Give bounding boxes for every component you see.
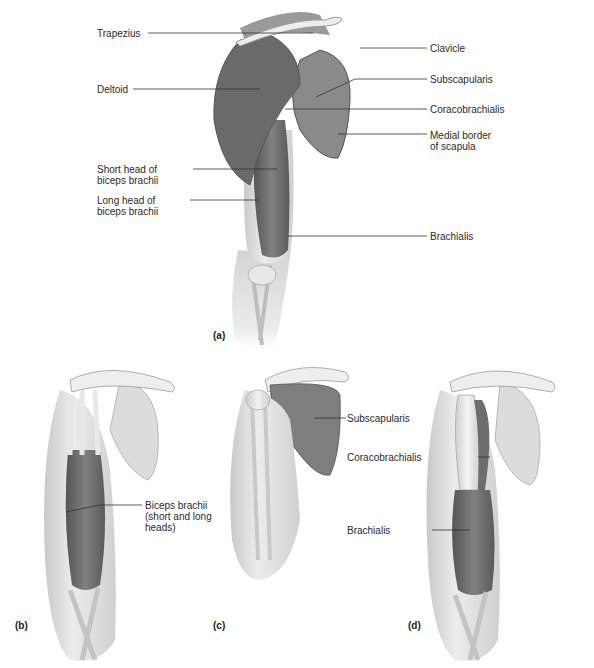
label-coracobrachialis-d: Coracobrachialis bbox=[347, 452, 421, 463]
panel-d-illustration bbox=[427, 371, 556, 661]
label-short-head-biceps: Short head of biceps brachii bbox=[97, 164, 158, 186]
panel-label-a: (a) bbox=[213, 330, 225, 341]
panel-label-b: (b) bbox=[15, 620, 28, 631]
arm-muscles-illustration bbox=[0, 0, 594, 668]
label-biceps-brachii: Biceps brachii (short and long heads) bbox=[145, 500, 212, 533]
label-medial-border-scapula: Medial border of scapula bbox=[430, 130, 491, 152]
panel-a-illustration bbox=[214, 12, 350, 349]
label-clavicle: Clavicle bbox=[430, 43, 465, 54]
label-subscapularis-c: Subscapularis bbox=[347, 413, 410, 424]
label-subscapularis-a: Subscapularis bbox=[430, 74, 493, 85]
label-brachialis-d: Brachialis bbox=[347, 525, 390, 536]
label-long-head-biceps: Long head of biceps brachii bbox=[97, 195, 158, 217]
label-trapezius: Trapezius bbox=[97, 28, 141, 39]
label-deltoid: Deltoid bbox=[97, 84, 128, 95]
panel-label-c: (c) bbox=[213, 620, 225, 631]
panel-label-d: (d) bbox=[408, 620, 421, 631]
label-coracobrachialis-a: Coracobrachialis bbox=[430, 104, 504, 115]
label-brachialis-a: Brachialis bbox=[430, 231, 473, 242]
panel-c-illustration bbox=[230, 368, 348, 581]
